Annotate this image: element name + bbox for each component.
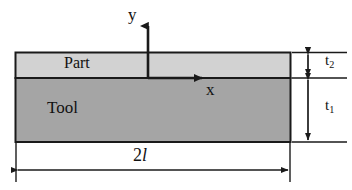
part-layer-rect bbox=[16, 53, 291, 79]
y-axis-label: y bbox=[128, 6, 137, 23]
part-label: Part bbox=[64, 55, 90, 71]
diagram-canvas: Part Tool y x t2 t1 2l bbox=[0, 0, 352, 190]
t1-subscript: 1 bbox=[329, 104, 334, 115]
t1-dimension-label: t1 bbox=[325, 98, 334, 115]
tool-label: Tool bbox=[47, 99, 78, 116]
t2-dimension-label: t2 bbox=[325, 53, 334, 70]
width-symbol: l bbox=[142, 145, 147, 165]
width-prefix: 2 bbox=[133, 145, 142, 165]
cross-section-drawing bbox=[0, 0, 352, 190]
x-axis-label: x bbox=[206, 81, 215, 98]
width-dimension-label: 2l bbox=[133, 146, 147, 164]
t2-subscript: 2 bbox=[329, 59, 334, 70]
